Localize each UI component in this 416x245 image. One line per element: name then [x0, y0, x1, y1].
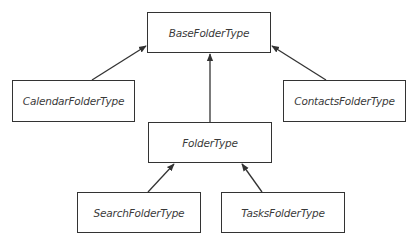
edge-search-to-folder [148, 164, 174, 192]
node-contacts-folder-type: ContactsFolderType [283, 80, 406, 122]
node-search-folder-type: SearchFolderType [77, 192, 201, 233]
node-base-folder-type: BaseFolderType [147, 12, 271, 53]
node-label: CalendarFolderType [23, 95, 124, 107]
node-folder-type: FolderType [148, 122, 272, 163]
edge-calendar-to-base [92, 46, 146, 80]
node-tasks-folder-type: TasksFolderType [221, 192, 345, 233]
edge-tasks-to-folder [242, 164, 262, 192]
node-calendar-folder-type: CalendarFolderType [12, 80, 135, 122]
node-label: FolderType [182, 137, 238, 149]
inheritance-diagram: BaseFolderType CalendarFolderType Contac… [0, 0, 416, 245]
node-label: BaseFolderType [169, 27, 249, 39]
edge-contacts-to-base [272, 46, 326, 80]
node-label: SearchFolderType [94, 207, 185, 219]
node-label: ContactsFolderType [294, 95, 394, 107]
node-label: TasksFolderType [241, 207, 324, 219]
